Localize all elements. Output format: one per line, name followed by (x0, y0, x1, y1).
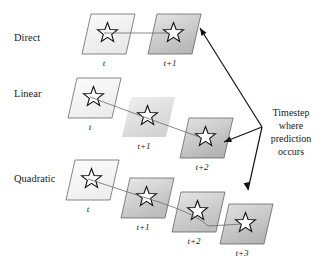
callout-layer: Timestepwherepredictionoccurs (271, 107, 312, 157)
step-label-direct-0: t (103, 58, 106, 68)
timestep-card-direct-tplus1 (148, 14, 201, 54)
pointer-to-direct-arrowhead-icon (197, 26, 206, 36)
pointer-to-quadratic (248, 127, 262, 190)
step-label-direct-1: t+1 (163, 58, 176, 68)
step-label-linear-2: t+2 (195, 162, 209, 172)
timestep-card-quadratic-tplus3 (220, 204, 273, 244)
callout-line-1: where (279, 120, 304, 131)
row-label-linear: Linear (14, 88, 42, 99)
callout-line-3: occurs (278, 146, 304, 157)
callout-line-2: prediction (271, 133, 312, 144)
step-label-quadratic-1: t+1 (136, 222, 149, 232)
row-label-direct: Direct (14, 32, 40, 43)
timestep-card-linear-tplus1 (122, 97, 175, 137)
pointer-to-direct (200, 28, 262, 127)
step-label-quadratic-0: t (87, 204, 90, 214)
step-label-quadratic-2: t+2 (187, 236, 201, 246)
step-label-quadratic-3: t+3 (235, 248, 249, 258)
callout-line-0: Timestep (273, 107, 310, 118)
timestep-card-linear-tplus2 (180, 118, 233, 158)
row-label-quadratic: Quadratic (14, 173, 56, 184)
step-label-linear-1: t+1 (137, 141, 150, 151)
cards-layer (66, 14, 273, 244)
timestep-card-linear-t (68, 78, 121, 118)
prediction-timestep-diagram: Directtt+1Lineartt+1t+2Quadratictt+1t+2t… (0, 0, 329, 261)
timestep-card-quadratic-tplus2 (172, 192, 225, 232)
diagram-canvas: Directtt+1Lineartt+1t+2Quadratictt+1t+2t… (0, 0, 329, 261)
timestep-card-direct-t (82, 14, 135, 54)
step-label-linear-0: t (89, 122, 92, 132)
timestep-card-quadratic-t (66, 160, 119, 200)
